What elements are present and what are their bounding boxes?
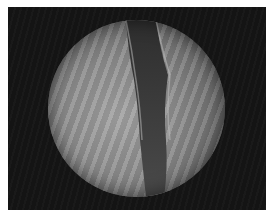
endoscopic-view xyxy=(48,20,225,197)
vignette xyxy=(48,20,225,197)
